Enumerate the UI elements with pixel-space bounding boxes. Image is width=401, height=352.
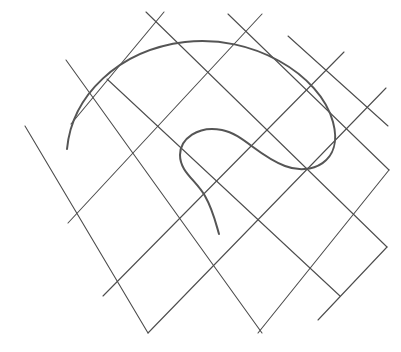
diagram-canvas	[0, 0, 401, 352]
diagram-svg	[0, 0, 401, 352]
canvas-background	[0, 0, 401, 352]
